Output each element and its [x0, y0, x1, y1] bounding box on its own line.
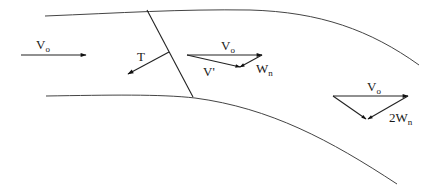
- inlet-velocity-label: Vo: [36, 37, 50, 54]
- upper-streamtube-wall: [45, 10, 419, 65]
- far-induced-label: 2Wn: [389, 110, 413, 127]
- rotor-disk-line: [147, 10, 193, 97]
- far-resultant-vector: [333, 96, 366, 119]
- thrust-label: T: [137, 49, 145, 64]
- streamtube-diagram: Vo T Vo V' Wn Vo 2Wn: [0, 0, 439, 195]
- thrust-arrow: [128, 52, 169, 74]
- mid-freestream-label: Vo: [221, 38, 235, 55]
- diagram-svg: Vo T Vo V' Wn Vo 2Wn: [0, 0, 439, 195]
- far-freestream-label: Vo: [367, 79, 381, 96]
- mid-induced-label: Wn: [256, 61, 273, 78]
- lower-streamtube-wall: [46, 95, 397, 184]
- mid-resultant-label: V': [203, 64, 215, 79]
